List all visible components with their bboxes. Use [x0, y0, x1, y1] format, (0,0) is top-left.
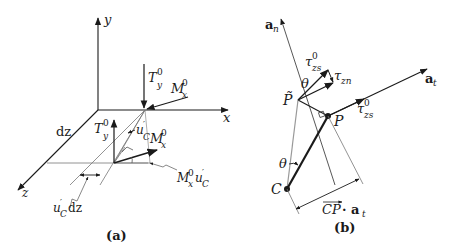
svg-text:0: 0	[157, 67, 163, 77]
svg-text:n: n	[273, 24, 279, 34]
c-projection-line	[287, 189, 299, 214]
cp-dot-at-label: CP · a t	[322, 202, 366, 219]
c-label: C	[271, 181, 282, 197]
ptilde-p-line	[298, 100, 328, 116]
svg-text:t: t	[362, 209, 366, 219]
svg-text:′: ′	[60, 198, 62, 208]
panel-a-caption: (a)	[106, 228, 127, 243]
at-label: a t	[425, 71, 437, 88]
svg-text:dz: dz	[68, 201, 82, 215]
ptilde-c-line	[287, 100, 298, 189]
svg-text:zs: zs	[311, 63, 322, 73]
ptilde-label: P̃	[282, 91, 293, 108]
panel-a: y x z dz T 0 y M 0 x	[18, 12, 231, 243]
svg-text:· a: · a	[342, 202, 360, 217]
svg-text:C: C	[143, 132, 150, 142]
theta-top-label: θ	[301, 76, 309, 91]
svg-text:0: 0	[161, 128, 167, 138]
svg-text:0: 0	[312, 51, 318, 61]
x-axis-label: x	[223, 110, 231, 125]
svg-text:CP: CP	[322, 202, 341, 217]
svg-text:C: C	[60, 209, 67, 219]
panel-b: a n a t τ 0 zs τ 0 zs	[265, 17, 437, 235]
ty-top-label: T 0 y	[148, 67, 163, 90]
mx-uc-leader	[150, 163, 177, 170]
svg-text:0: 0	[364, 98, 370, 108]
ty-lower-label: T 0 y	[94, 118, 109, 141]
svg-text:y: y	[102, 131, 109, 141]
svg-text:0: 0	[103, 118, 109, 128]
svg-text:′: ′	[202, 168, 204, 178]
mx-uc-label: M 0 x u ′ C	[176, 168, 209, 189]
tau-zs-ptilde-label: τ 0 zs	[305, 51, 322, 73]
panel-b-caption: (b)	[334, 220, 355, 235]
dz-label: dz	[56, 124, 71, 139]
ucdz-label: u ′ C dz	[53, 198, 82, 219]
svg-text:0: 0	[182, 78, 188, 88]
svg-text:x: x	[161, 140, 166, 150]
svg-text:x: x	[182, 90, 187, 100]
svg-text:C: C	[202, 179, 209, 189]
mx-top-label: M 0 x	[170, 78, 188, 100]
tau-component-arrow	[328, 70, 333, 82]
z-axis-label: z	[21, 186, 29, 200]
svg-text:zs: zs	[363, 110, 374, 120]
svg-text:zn: zn	[340, 76, 352, 86]
svg-text:′: ′	[143, 120, 145, 130]
svg-text:y: y	[156, 80, 163, 90]
svg-text:0: 0	[188, 168, 194, 178]
tau-zn-label: τ zn	[334, 68, 352, 86]
theta-bottom-label: θ	[279, 156, 287, 171]
c-p-line	[287, 116, 328, 189]
p-label: P	[333, 113, 344, 129]
z-axis	[18, 110, 98, 190]
uc-label: u ′ C	[136, 120, 150, 142]
tau-zs-p-label: τ 0 zs	[357, 98, 374, 120]
mx-lower-label: M 0 x	[149, 128, 167, 150]
svg-text:x: x	[188, 179, 193, 189]
an-label: a n	[265, 17, 279, 34]
right-projection-line	[328, 116, 363, 184]
y-axis-label: y	[103, 12, 112, 27]
svg-text:t: t	[433, 78, 437, 88]
an-end-extension	[335, 185, 360, 186]
diagram-canvas: y x z dz T 0 y M 0 x	[0, 0, 451, 247]
